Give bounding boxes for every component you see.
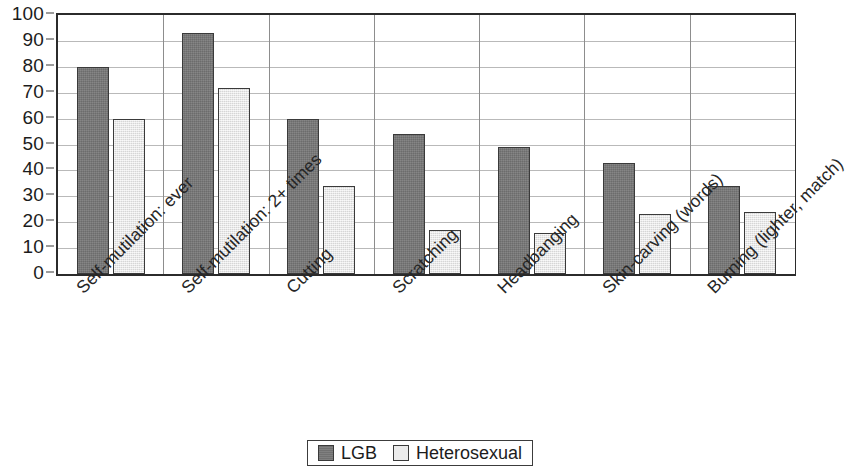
y-tick-mark [46, 194, 54, 195]
y-tick-label: 50 [22, 133, 44, 152]
legend-label: Heterosexual [416, 444, 522, 462]
chart-legend: LGBHeterosexual [307, 440, 533, 466]
y-tick-label: 80 [22, 55, 44, 74]
y-tick-mark [46, 272, 54, 273]
legend-label: LGB [341, 444, 377, 462]
y-tick-label: 30 [22, 185, 44, 204]
legend-swatch-lgb [318, 445, 334, 461]
y-tick-label: 70 [22, 81, 44, 100]
plot-area [56, 13, 796, 276]
y-tick-mark [46, 220, 54, 221]
bar-lgb [77, 67, 109, 274]
y-tick-label: 100 [12, 4, 44, 23]
legend-item: Heterosexual [393, 444, 522, 462]
y-tick-label: 40 [22, 159, 44, 178]
y-tick-mark [46, 246, 54, 247]
x-axis-labels: Self-mutilation: everSelf-mutilation: 2+… [0, 278, 795, 420]
y-tick-mark [46, 38, 54, 39]
y-axis: 1009080706050403020100 [0, 0, 56, 285]
y-tick-mark [46, 90, 54, 91]
bars [58, 15, 795, 274]
y-tick-mark [46, 142, 54, 143]
legend-item: LGB [318, 444, 377, 462]
y-tick-label: 60 [22, 107, 44, 126]
y-tick-mark [46, 13, 54, 14]
y-tick-label: 10 [22, 237, 44, 256]
y-tick-label: 90 [22, 29, 44, 48]
y-tick-mark [46, 116, 54, 117]
y-tick-mark [46, 168, 54, 169]
bar-lgb [182, 33, 214, 274]
y-tick-label: 20 [22, 211, 44, 230]
legend-swatch-het [393, 445, 409, 461]
y-tick-mark [46, 64, 54, 65]
